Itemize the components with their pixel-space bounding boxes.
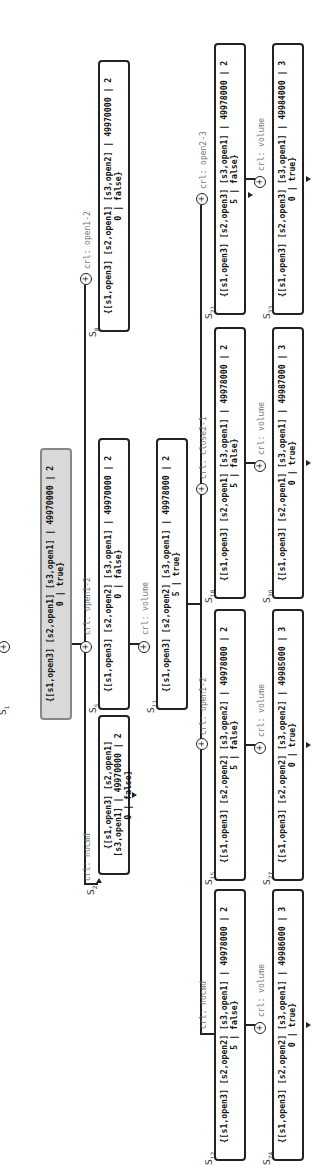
edge-label: crl: nocmd: [199, 981, 208, 1029]
edge-label: crl: close2-1: [199, 416, 208, 479]
state-text-2: 5 | false}: [229, 895, 239, 1155]
edge-label: crl: volume: [141, 582, 150, 635]
expand-marker-icon: +: [196, 193, 208, 205]
edge-label: crl: open1-2: [83, 577, 92, 635]
state-node-s15[interactable]: {[s1,open3] [s2,open2] [s3,open2] | 4997…: [214, 609, 246, 881]
expand-marker-icon: +: [80, 273, 92, 285]
edge-label: crl: volume: [257, 118, 266, 171]
state-node-s33[interactable]: {[s1,open3] [s2,open3] [s3,open1] | 4998…: [272, 43, 304, 315]
state-node-s11[interactable]: {[s1,open3] [s2,open2] [s3,open1] | 4997…: [156, 438, 188, 710]
state-node-s27[interactable]: {[s1,open3] [s2,open2] [s3,open2] | 4998…: [272, 609, 304, 881]
state-text-2: 5 | false}: [229, 49, 239, 309]
expand-marker-icon: +: [80, 641, 92, 653]
state-text: {[s1,open3] [s2,open3] [s3,open1] | 4997…: [219, 49, 229, 309]
edge-label: crl: nocmd: [83, 833, 92, 881]
state-node-s5[interactable]: {[s1,open3] [s2,open2] [s3,open1] | 4997…: [98, 438, 130, 710]
expand-marker-icon: +: [138, 641, 150, 653]
edge-label: crl: volume: [257, 402, 266, 455]
state-text: {[s1,open3] [s2,open1] [s3,open1] | 4997…: [219, 333, 229, 593]
expand-marker-icon: +: [0, 641, 10, 653]
edge-label: crl: open1-2: [199, 677, 208, 735]
state-text-2: 0 | false}: [113, 444, 123, 704]
state-label-s1: S1: [0, 705, 10, 715]
state-text-2: 0 | true}: [287, 333, 297, 593]
state-text: {[s1,open3] [s2,open2] [s3,open1] | 4997…: [219, 895, 229, 1155]
state-node-s24[interactable]: {[s1,open3] [s2,open2] [s3,open1] | 4998…: [272, 889, 304, 1161]
state-text-2: 5 | false}: [229, 333, 239, 593]
edge-label: crl: volume: [257, 684, 266, 737]
expand-marker-icon: +: [196, 483, 208, 495]
expand-marker-icon: +: [254, 460, 266, 472]
state-node-s18[interactable]: {[s1,open3] [s2,open1] [s3,open1] | 4997…: [214, 327, 246, 599]
state-text: {[s1,open3] [s2,open2] [s3,open1] | 4997…: [103, 444, 113, 704]
state-text: {[s1,open3] [s2,open2] [s3,open2] | 4997…: [219, 615, 229, 875]
state-text-2: 5 | false}: [229, 615, 239, 875]
state-text-2: 0 | true}: [287, 615, 297, 875]
edge-label: crl: open2-3: [199, 131, 208, 189]
expand-marker-icon: +: [254, 742, 266, 754]
state-node-s2[interactable]: {[s1,open3] [s2,open1] [s3,open1] | 4997…: [98, 715, 130, 875]
state-node-s21[interactable]: {[s1,open3] [s2,open3] [s3,open1] | 4997…: [214, 43, 246, 315]
state-node-s1[interactable]: {[s1,open3] [s2,open1] [s3,open1] | 4997…: [40, 448, 72, 720]
state-text: {[s1,open3] [s2,open2] [s3,open1] | 4998…: [277, 895, 287, 1155]
state-text: {[s1,open3] [s2,open1] [s3,open1] | 4997…: [45, 454, 55, 714]
state-text-2: 0 | true}: [55, 454, 65, 714]
state-text: {[s1,open3] [s2,open1] [s3,open2] | 4997…: [103, 66, 113, 326]
expand-marker-icon: +: [254, 176, 266, 188]
edge-label: crl: open1-2: [83, 211, 92, 269]
edge-label: crl: volume: [257, 964, 266, 1017]
state-text-2: 0 | true}: [287, 895, 297, 1155]
state-node-s8[interactable]: {[s1,open3] [s2,open1] [s3,open2] | 4997…: [98, 60, 130, 332]
expand-marker-icon: +: [254, 1022, 266, 1034]
state-text: {[s1,open3] [s2,open2] [s3,open1] | 4997…: [161, 444, 171, 704]
state-text-2: 5 | true}: [171, 444, 181, 704]
expand-marker-icon: +: [196, 738, 208, 750]
state-text: {[s1,open3] [s2,open1] [s3,open1] | 4998…: [277, 333, 287, 593]
state-text: {[s1,open3] [s2,open2] [s3,open2] | 4998…: [277, 615, 287, 875]
state-tree-diagram: + S1 {[s1,open3] [s2,open1] [s3,open1] |…: [0, 0, 328, 1165]
state-node-s12[interactable]: {[s1,open3] [s2,open2] [s3,open1] | 4997…: [214, 889, 246, 1161]
state-text: {[s1,open3] [s2,open1] [s3,open1] | 4997…: [103, 721, 123, 869]
state-text: {[s1,open3] [s2,open3] [s3,open1] | 4998…: [277, 49, 287, 309]
state-node-s30[interactable]: {[s1,open3] [s2,open1] [s3,open1] | 4998…: [272, 327, 304, 599]
state-text-2: 0 | true}: [287, 49, 297, 309]
state-label-s2: S2: [86, 885, 98, 895]
state-text-2: 0 | false}: [113, 66, 123, 326]
